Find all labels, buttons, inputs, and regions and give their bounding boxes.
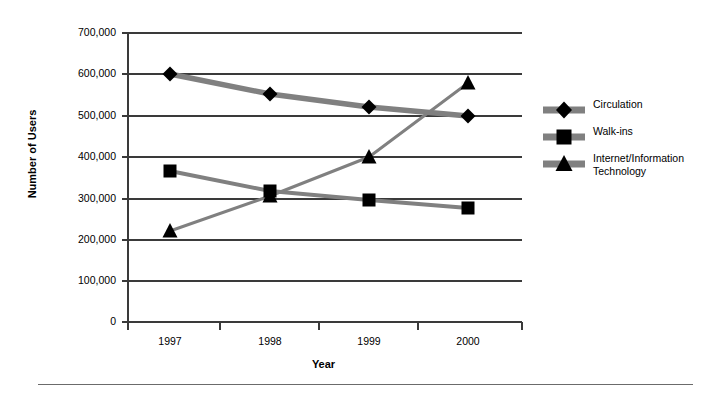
data-point-walk-ins-1997 [164,165,177,178]
y-tick-label-200000: 200,000 [38,234,116,245]
legend-label-walk-ins: Walk-ins [593,125,713,138]
y-tick-label-500000: 500,000 [38,110,116,121]
x-tick-marks [128,322,522,330]
data-point-circulation-2000 [461,109,476,124]
series-markers-walk-ins [164,165,475,215]
y-tick-label-400000: 400,000 [38,151,116,162]
x-tick-label-1997: 1997 [125,336,215,347]
data-point-walk-ins-2000 [462,202,475,215]
y-axis-title: Number of Users [26,74,38,234]
x-tick-label-1999: 1999 [324,336,414,347]
data-point-circulation-1998 [263,87,278,102]
data-point-circulation-1997 [163,67,178,82]
x-tick-label-2000: 2000 [423,336,513,347]
y-tick-label-300000: 300,000 [38,193,116,204]
y-tick-marks [122,33,128,322]
x-tick-label-1998: 1998 [225,336,315,347]
data-point-internet-1999 [362,149,377,164]
series-line-circulation [170,74,468,116]
x-axis-title: Year [125,358,522,370]
y-tick-label-100000: 100,000 [38,275,116,286]
footer-divider [38,384,693,385]
data-point-circulation-1999 [362,100,377,115]
gridlines [128,33,522,281]
line-chart: 700,000 600,000 500,000 400,000 300,000 … [0,0,715,399]
y-tick-label-600000: 600,000 [38,68,116,79]
legend-label-circulation: Circulation [593,98,713,111]
legend-item-walk-ins[interactable]: Walk-ins [541,124,713,151]
y-tick-label-0: 0 [38,316,116,327]
data-point-walk-ins-1999 [363,194,376,207]
chart-legend: Circulation Walk-ins Internet/Informatio… [541,97,713,178]
y-tick-label-700000: 700,000 [38,27,116,38]
legend-item-internet-information-technology[interactable]: Internet/Information Technology [541,151,713,178]
legend-item-circulation[interactable]: Circulation [541,97,713,124]
legend-label-internet-information-technology: Internet/Information Technology [593,152,713,178]
data-point-internet-2000 [461,75,476,90]
